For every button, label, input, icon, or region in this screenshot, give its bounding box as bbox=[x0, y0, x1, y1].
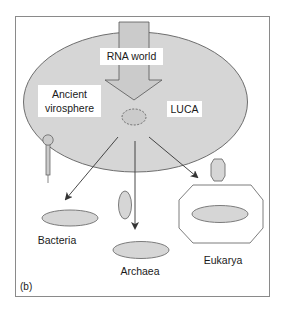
eukarya-nucleus bbox=[192, 206, 248, 223]
archaea-cell bbox=[113, 242, 169, 259]
panel-label: (b) bbox=[20, 281, 32, 292]
bacteria-label: Bacteria bbox=[38, 234, 77, 246]
tree-of-life-diagram: RNA world Ancient virosphere LUCA Bacter… bbox=[0, 0, 283, 316]
bacteria-cell bbox=[42, 210, 98, 226]
luca-label: LUCA bbox=[170, 103, 198, 115]
eukarya-label: Eukarya bbox=[204, 254, 243, 266]
archaea-label: Archaea bbox=[120, 265, 159, 277]
ancient-virosphere-label-line2: virosphere bbox=[45, 102, 94, 114]
archaea-small-cell bbox=[119, 191, 132, 219]
luca-cell bbox=[122, 109, 146, 125]
ancient-virosphere-label-line1: Ancient bbox=[52, 88, 87, 100]
eukarya-small-virion bbox=[211, 159, 225, 181]
rna-world-label: RNA world bbox=[107, 50, 157, 62]
